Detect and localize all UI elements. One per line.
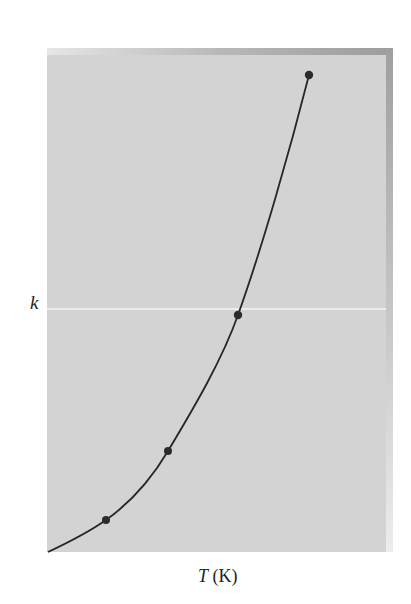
y-axis-label: k [30, 292, 38, 314]
data-point [102, 516, 110, 524]
x-axis-unit: (K) [213, 566, 238, 586]
chart-plot [0, 0, 411, 604]
data-point [164, 447, 172, 455]
chart-figure: k T (K) [0, 0, 411, 604]
plot-area [47, 55, 386, 552]
panel-right-band [386, 48, 393, 552]
x-axis-variable: T [198, 566, 208, 586]
data-point [234, 311, 242, 319]
panel-top-band [47, 48, 393, 56]
data-point [305, 71, 313, 79]
x-axis-label: T (K) [198, 566, 238, 587]
